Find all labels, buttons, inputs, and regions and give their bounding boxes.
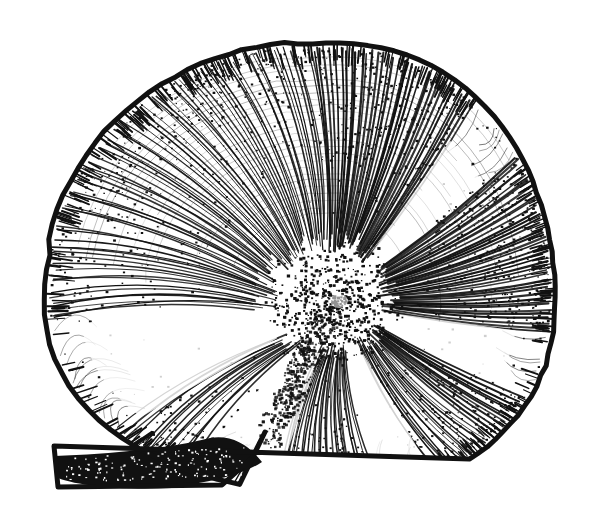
core-stipple-dot xyxy=(307,295,310,297)
stipple-dot xyxy=(467,438,468,439)
stipple-dot xyxy=(220,104,222,106)
stipple-dot xyxy=(375,127,377,129)
core-stipple-dot xyxy=(380,318,383,321)
core-stipple-dot xyxy=(285,299,288,302)
stipple-dot xyxy=(107,220,110,222)
stipple-dot xyxy=(509,256,511,258)
stipple-dot xyxy=(259,64,260,65)
stipple-dot xyxy=(208,87,209,88)
stipple-dot xyxy=(170,97,172,99)
core-stipple-dot xyxy=(372,280,375,283)
columella-shadow-dot xyxy=(279,437,282,440)
stipple-dot xyxy=(548,310,550,312)
stipple-dot xyxy=(379,53,381,55)
stipple-dot xyxy=(508,275,510,277)
columella-shadow-dot xyxy=(279,434,281,436)
core-stipple-dot xyxy=(303,304,306,307)
stipple-dot xyxy=(124,143,125,144)
stipple-dot xyxy=(503,390,504,391)
stipple-dot xyxy=(523,397,525,399)
stipple-dot xyxy=(507,196,508,197)
core-stipple-dot xyxy=(299,258,302,261)
stipple-dot xyxy=(499,140,501,141)
core-stipple-dot xyxy=(294,315,296,317)
stipple-dot xyxy=(498,278,500,279)
columella-shadow-dot xyxy=(296,376,299,379)
stipple-dot xyxy=(284,54,286,56)
stipple-dot xyxy=(176,117,179,119)
stipple-dot xyxy=(133,219,135,221)
stipple-dot xyxy=(443,215,446,217)
stipple-dot xyxy=(496,397,497,398)
stipple-dot xyxy=(405,86,407,88)
columella-shadow-dot xyxy=(329,320,331,322)
stipple-dot xyxy=(84,180,87,182)
columella-shadow-dot xyxy=(288,383,291,386)
columella-shadow-dot xyxy=(296,388,298,390)
stipple-dot xyxy=(248,391,250,393)
core-stipple-dot xyxy=(267,271,270,274)
stipple-dot xyxy=(538,261,540,263)
stipple-dot xyxy=(499,267,501,269)
stipple-dot xyxy=(430,142,431,143)
stipple-dot xyxy=(449,247,451,249)
core-stipple-dot xyxy=(340,256,342,258)
stipple-dot xyxy=(509,223,512,225)
stipple-dot xyxy=(403,153,405,155)
stipple-dot xyxy=(382,158,384,159)
stipple-dot xyxy=(432,148,434,150)
core-stipple-dot xyxy=(354,337,355,338)
stipple-dot xyxy=(141,162,143,164)
stipple-dot xyxy=(490,311,491,312)
stipple-dot xyxy=(463,96,466,98)
stipple-dot xyxy=(494,290,496,292)
core-stipple-dot xyxy=(364,321,366,323)
core-stipple-dot xyxy=(324,295,327,297)
stipple-dot xyxy=(195,79,197,81)
stipple-dot xyxy=(180,85,182,87)
stipple-dot xyxy=(530,322,531,323)
columella-shadow-dot xyxy=(263,441,266,444)
stipple-dot xyxy=(387,98,389,100)
stipple-dot xyxy=(293,62,294,63)
columella-shadow-dot xyxy=(314,356,317,359)
core-stipple-dot xyxy=(305,290,308,293)
stipple-dot xyxy=(516,201,517,202)
stipple-dot xyxy=(435,306,436,307)
stipple-dot xyxy=(457,274,459,275)
stipple-dot xyxy=(405,372,407,374)
stipple-dot xyxy=(350,108,352,110)
core-stipple-dot xyxy=(377,256,379,258)
core-stipple-dot xyxy=(375,330,378,332)
rim-hatch-tick xyxy=(541,292,554,293)
columella-shadow-dot xyxy=(330,316,331,317)
stipple-dot xyxy=(512,321,514,323)
core-stipple-dot xyxy=(345,242,347,243)
core-stipple-dot xyxy=(304,279,307,282)
stipple-dot xyxy=(351,82,354,84)
core-stipple-dot xyxy=(339,316,342,319)
stipple-dot xyxy=(385,167,387,168)
stipple-dot xyxy=(143,253,145,255)
stipple-dot xyxy=(319,143,321,144)
stipple-dot xyxy=(475,410,476,411)
columella-shadow-dot xyxy=(272,438,273,439)
stipple-dot xyxy=(405,391,407,393)
stipple-dot xyxy=(273,111,275,112)
stipple-dot xyxy=(512,313,514,315)
columella-shadow-dot xyxy=(295,358,297,360)
stipple-dot xyxy=(449,289,451,291)
columella-shadow-dot xyxy=(276,440,278,441)
stipple-dot xyxy=(124,177,126,178)
stipple-dot xyxy=(288,106,291,108)
stipple-dot xyxy=(452,85,454,87)
columella-shadow-dot xyxy=(279,443,282,446)
stipple-dot xyxy=(443,92,445,94)
core-stipple-dot xyxy=(325,271,327,273)
stipple-dot xyxy=(320,67,322,68)
core-stipple-dot xyxy=(369,265,371,267)
stipple-dot xyxy=(326,156,328,158)
stipple-dot xyxy=(154,288,156,290)
core-stipple-dot xyxy=(354,327,356,328)
stipple-dot xyxy=(513,365,516,367)
